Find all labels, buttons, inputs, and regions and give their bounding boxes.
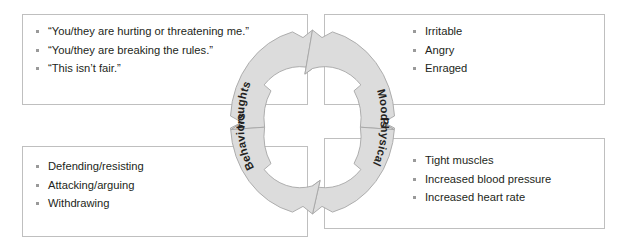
- behaviors-list: Defending/resisting Attacking/arguing Wi…: [35, 157, 144, 213]
- list-item: Attacking/arguing: [35, 176, 144, 195]
- list-item: Enraged: [412, 59, 467, 78]
- list-item: “You/they are breaking the rules.”: [35, 41, 249, 60]
- moods-list: Irritable Angry Enraged: [412, 22, 467, 78]
- list-item: Withdrawing: [35, 194, 144, 213]
- list-item: Irritable: [412, 22, 467, 41]
- diagram-canvas: Thoughts Moods Physical: [0, 0, 625, 251]
- segment-moods: Moods: [305, 30, 395, 130]
- list-item: Increased blood pressure: [412, 170, 551, 189]
- list-item: Defending/resisting: [35, 157, 144, 176]
- list-item: Tight muscles: [412, 151, 551, 170]
- list-item: Angry: [412, 41, 467, 60]
- cycle-ring: Thoughts Moods Physical: [230, 30, 395, 214]
- thoughts-list: “You/they are hurting or threatening me.…: [35, 22, 249, 78]
- segment-physical: Physical: [313, 117, 395, 214]
- list-item: Increased heart rate: [412, 188, 551, 207]
- list-item: “You/they are hurting or threatening me.…: [35, 22, 249, 41]
- list-item: “This isn’t fair.”: [35, 59, 249, 78]
- segment-behaviors: Behaviors: [231, 112, 321, 214]
- physical-list: Tight muscles Increased blood pressure I…: [412, 151, 551, 207]
